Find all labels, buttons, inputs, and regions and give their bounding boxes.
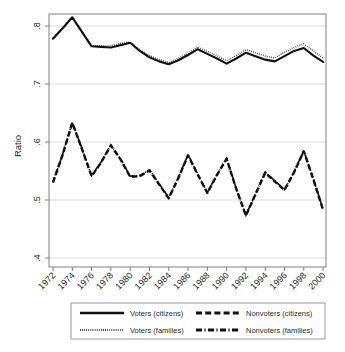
legend-label-voters-families: Voters (families) (130, 326, 184, 335)
y-tick-label: .4 (32, 254, 42, 262)
y-tick-label: .8 (32, 22, 42, 30)
y-axis-title: Ratio (12, 135, 23, 157)
chart-legend: Voters (citizens) Nonvoters (citizens) V… (71, 303, 325, 339)
legend-label-nonvoters-families: Nonvoters (families) (246, 326, 313, 335)
legend-label-voters-citizens: Voters (citizens) (130, 309, 184, 318)
chart-background (0, 0, 345, 352)
ratio-line-chart: Ratio .8 .7 .6 .5 .4 1972197419761978198… (0, 0, 345, 352)
y-tick-label: .6 (32, 138, 42, 146)
y-tick-label: .5 (32, 196, 42, 204)
legend-label-nonvoters-citizens: Nonvoters (citizens) (246, 309, 313, 318)
y-tick-label: .7 (32, 80, 42, 88)
